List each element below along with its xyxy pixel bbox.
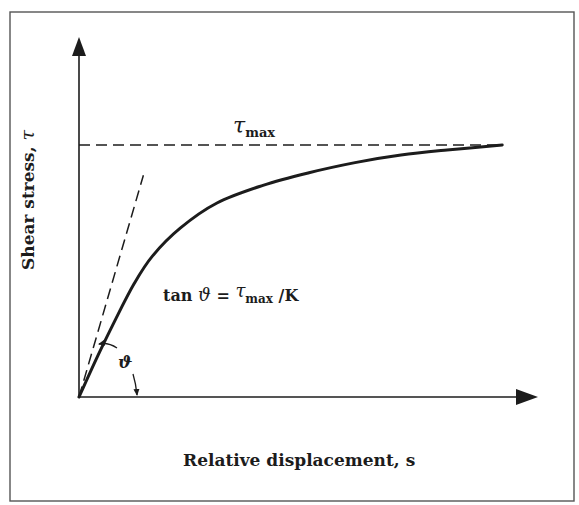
figure-frame	[10, 12, 574, 501]
y-axis-arrow-icon	[72, 37, 86, 56]
equation-lhs: tan	[163, 286, 198, 305]
shear-stress-curve-line	[79, 145, 502, 397]
x-axis-label: Relative displacement, s	[183, 450, 415, 470]
shear-stress-diagram: ϑ τmax tan ϑ = τmax /K Shear stress, τ R…	[0, 0, 579, 505]
equation-equals: =	[211, 286, 236, 305]
tau-max-label: τmax	[233, 113, 275, 140]
angle-arc-lower	[133, 374, 137, 395]
x-axis-arrow-icon	[516, 389, 538, 405]
tau-max-subscript: max	[245, 125, 275, 140]
y-axis-label-symbol: τ	[16, 129, 38, 140]
plot-layer	[79, 145, 502, 397]
y-axis-label-text: Shear stress,	[18, 140, 38, 270]
tau-max-symbol: τ	[233, 113, 246, 138]
equation-subscript: max	[245, 292, 273, 306]
y-axis-label: Shear stress, τ	[16, 129, 38, 270]
angle-label: ϑ	[118, 352, 132, 372]
equation-angle: ϑ	[198, 284, 211, 305]
equation-label: tan ϑ = τmax /K	[163, 280, 299, 306]
equation-rhs: /K	[273, 286, 299, 305]
